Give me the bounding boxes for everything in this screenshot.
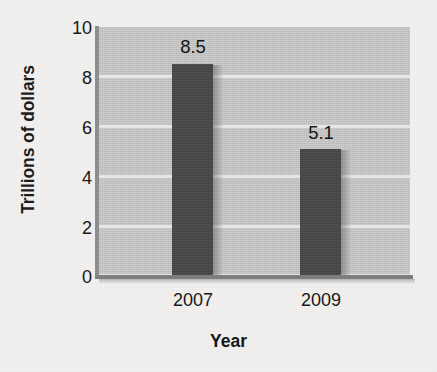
bar-shadow — [212, 65, 223, 277]
bar-value-label-2009: 5.1 — [308, 124, 334, 143]
x-axis-title-text: Year — [210, 331, 247, 352]
y-axis-title: Trillions of dollars — [13, 0, 43, 278]
bar-value-label-2007: 8.5 — [180, 38, 206, 57]
gridline — [99, 225, 410, 228]
bar-2009[interactable] — [300, 149, 341, 277]
y-axis-line — [95, 26, 99, 279]
x-tick-label-2007: 2007 — [173, 291, 213, 309]
y-tick-label: 2 — [50, 219, 92, 237]
gridline — [99, 125, 410, 128]
plot-area — [99, 27, 410, 277]
y-tick-label: 0 — [50, 268, 92, 286]
x-axis-title: Year — [0, 331, 437, 352]
y-tick-label: 6 — [50, 119, 92, 137]
x-axis-line — [95, 275, 413, 279]
y-tick-label: 8 — [50, 69, 92, 87]
gridline — [99, 75, 410, 78]
y-tick-label: 4 — [50, 169, 92, 187]
y-axis-title-text: Trillions of dollars — [18, 65, 39, 214]
x-tick-label-2009: 2009 — [301, 291, 341, 309]
y-tick-label: 10 — [50, 19, 92, 37]
bar-shadow — [340, 150, 351, 277]
y-axis-tick-labels: 10 8 6 4 2 0 — [48, 0, 92, 372]
bar-2007[interactable] — [172, 64, 213, 277]
gridline — [99, 175, 410, 178]
x-axis-shadow — [99, 279, 415, 284]
bar-chart-figure: Trillions of dollars 10 8 6 4 2 0 8.5 5.… — [0, 0, 437, 372]
